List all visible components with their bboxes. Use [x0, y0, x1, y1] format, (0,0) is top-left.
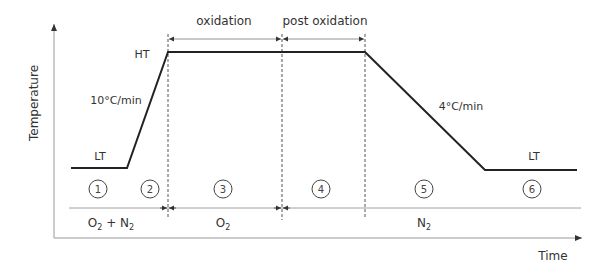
process-diagram: Temperature Time oxidation post oxidatio…: [0, 0, 611, 280]
phase-label-post-oxidation: post oxidation: [282, 14, 367, 28]
step-number: 5: [421, 184, 427, 195]
heating-rate-label: 10°C/min: [90, 94, 142, 107]
step-marker-4: 4: [312, 180, 330, 198]
atmosphere-label-n2: N2: [417, 216, 431, 232]
step-number: 2: [147, 184, 153, 195]
atmosphere-label-o2-n2: O2 + N2: [88, 216, 134, 232]
y-axis-label: Temperature: [27, 65, 41, 142]
step-marker-3: 3: [214, 180, 232, 198]
step-marker-2: 2: [141, 180, 159, 198]
temperature-profile-line: [71, 52, 577, 170]
step-marker-1: 1: [89, 180, 107, 198]
step-marker-5: 5: [415, 180, 433, 198]
step-number: 6: [529, 184, 535, 195]
step-number: 4: [318, 184, 324, 195]
level-label-lt-start: LT: [94, 150, 106, 163]
phase-label-oxidation: oxidation: [196, 14, 251, 28]
x-axis-label: Time: [537, 249, 567, 263]
level-label-ht: HT: [135, 48, 150, 61]
level-label-lt-end: LT: [528, 150, 540, 163]
step-number: 1: [95, 184, 101, 195]
atmosphere-label-o2: O2: [216, 216, 231, 232]
cooling-rate-label: 4°C/min: [439, 100, 484, 113]
step-marker-6: 6: [523, 180, 541, 198]
step-number: 3: [220, 184, 226, 195]
